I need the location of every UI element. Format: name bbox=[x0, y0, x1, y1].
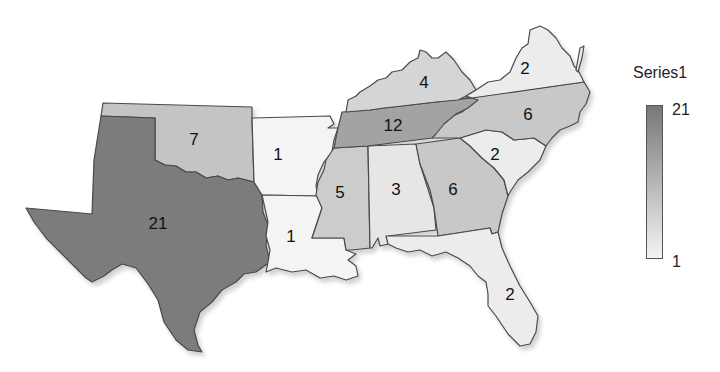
label-tennessee: 12 bbox=[384, 116, 403, 135]
legend-max-label: 21 bbox=[672, 101, 690, 119]
state-florida[interactable] bbox=[386, 228, 538, 346]
legend-min-label: 1 bbox=[672, 253, 681, 271]
label-north-carolina: 6 bbox=[523, 105, 532, 124]
state-virginia-eastern-shore[interactable] bbox=[576, 46, 584, 72]
label-arkansas: 1 bbox=[273, 145, 282, 164]
label-alabama: 3 bbox=[391, 180, 400, 199]
label-florida: 2 bbox=[505, 285, 514, 304]
map: 21 7 1 1 5 3 6 2 12 4 2 6 2 bbox=[0, 0, 720, 372]
label-georgia: 6 bbox=[448, 180, 457, 199]
label-mississippi: 5 bbox=[335, 183, 344, 202]
label-texas: 21 bbox=[149, 214, 168, 233]
label-oklahoma: 7 bbox=[189, 130, 198, 149]
label-virginia: 2 bbox=[520, 59, 529, 78]
legend-title: Series1 bbox=[633, 64, 687, 82]
legend-color-scale bbox=[646, 105, 663, 259]
label-kentucky: 4 bbox=[419, 73, 428, 92]
label-south-carolina: 2 bbox=[490, 145, 499, 164]
label-louisiana: 1 bbox=[286, 227, 295, 246]
